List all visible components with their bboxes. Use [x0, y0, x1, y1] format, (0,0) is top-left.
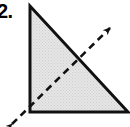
figure-container: 2.	[0, 0, 130, 127]
problem-number-label: 2.	[0, 0, 13, 22]
geometry-figure	[0, 0, 130, 127]
